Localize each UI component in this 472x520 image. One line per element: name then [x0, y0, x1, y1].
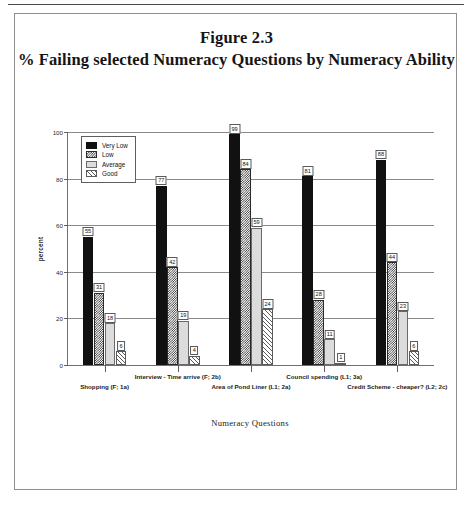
bar-very-low[interactable]: 77 — [156, 186, 167, 365]
legend-swatch-icon — [86, 142, 97, 149]
bar-value-label: 84 — [240, 159, 251, 168]
bar-value-label: 42 — [167, 257, 178, 266]
bar-good[interactable]: 1 — [335, 363, 346, 365]
legend-label: Low — [102, 151, 114, 158]
x-axis-tick — [178, 365, 179, 372]
x-axis-category-label: Shopping (F; 1a) — [80, 383, 129, 390]
bar-very-low[interactable]: 81 — [302, 176, 313, 365]
bar-value-label: 28 — [313, 290, 324, 299]
bar-average[interactable]: 19 — [178, 321, 189, 365]
bar-group: 7742194 — [156, 132, 200, 365]
y-axis-tick-label: 20 — [56, 315, 63, 322]
bar-value-label: 24 — [262, 299, 273, 308]
figure-border-box: Figure 2.3 % Failing selected Numeracy Q… — [14, 13, 457, 490]
bar-very-low[interactable]: 55 — [83, 237, 94, 365]
bar-value-label: 1 — [337, 353, 345, 362]
y-axis-tick-label: 100 — [53, 129, 63, 136]
y-axis-tick — [64, 225, 68, 226]
bar-value-label: 19 — [178, 311, 189, 320]
legend-label: Very Low — [102, 142, 128, 149]
bar-value-label: 81 — [302, 166, 313, 175]
bar-value-label: 4 — [190, 346, 198, 355]
bar-value-label: 55 — [83, 227, 94, 236]
y-axis-tick — [64, 365, 68, 366]
y-axis-tick — [64, 132, 68, 133]
bar-very-low[interactable]: 88 — [376, 160, 387, 365]
bar-average[interactable]: 23 — [398, 311, 409, 365]
y-axis-tick-label: 0 — [60, 362, 63, 369]
bar-average[interactable]: 18 — [105, 323, 116, 365]
bar-low[interactable]: 28 — [313, 300, 324, 365]
bar-group: 99845924 — [229, 132, 273, 365]
y-axis-tick — [64, 318, 68, 319]
legend-label: Good — [102, 170, 117, 177]
figure-page: Figure 2.3 % Failing selected Numeracy Q… — [0, 0, 472, 520]
x-axis-category-label: Interview - Time arrive (F; 2b) — [135, 373, 221, 380]
legend-label: Average — [102, 161, 125, 168]
bar-value-label: 77 — [156, 176, 167, 185]
bar-good[interactable]: 6 — [116, 351, 127, 365]
x-axis-category-label: Council spending (L1; 3a) — [286, 373, 362, 380]
legend-item-very-low[interactable]: Very Low — [86, 141, 128, 151]
bar-low[interactable]: 31 — [94, 293, 105, 365]
legend-swatch-icon — [86, 170, 97, 177]
bar-chart: percent 0204060801005531186Shopping (F; … — [15, 14, 458, 491]
bar-value-label: 99 — [229, 124, 240, 133]
y-axis-title: percent — [37, 236, 44, 261]
chart-legend: Very LowLowAverageGood — [81, 136, 136, 183]
bar-group: 8128111 — [302, 132, 346, 365]
bar-value-label: 11 — [324, 330, 335, 339]
legend-item-low[interactable]: Low — [86, 150, 128, 160]
legend-item-average[interactable]: Average — [86, 160, 128, 170]
y-axis-tick — [64, 179, 68, 180]
x-axis-category-label: Credit Scheme - cheaper? (L2; 2c) — [347, 383, 447, 390]
bar-very-low[interactable]: 99 — [229, 134, 240, 365]
bar-value-label: 6 — [117, 341, 125, 350]
bar-low[interactable]: 44 — [387, 262, 398, 365]
bar-average[interactable]: 59 — [251, 228, 262, 365]
bar-low[interactable]: 84 — [240, 169, 251, 365]
bar-group: 8844236 — [376, 132, 420, 365]
bar-value-label: 44 — [386, 253, 397, 262]
page-top-rule — [8, 4, 464, 5]
bar-value-label: 6 — [410, 341, 418, 350]
x-axis-tick — [251, 365, 252, 372]
y-axis-tick-label: 40 — [56, 268, 63, 275]
bar-good[interactable]: 4 — [189, 356, 200, 365]
bar-good[interactable]: 24 — [262, 309, 273, 365]
bar-value-label: 59 — [251, 218, 262, 227]
legend-swatch-icon — [86, 161, 97, 168]
x-axis-category-label: Area of Pond Liner (L1; 2a) — [211, 383, 290, 390]
y-axis-tick-label: 80 — [56, 175, 63, 182]
x-axis-tick — [397, 365, 398, 372]
y-axis-tick — [64, 272, 68, 273]
bar-value-label: 31 — [94, 283, 105, 292]
legend-swatch-icon — [86, 151, 97, 158]
legend-item-good[interactable]: Good — [86, 169, 128, 179]
y-axis-tick-label: 60 — [56, 222, 63, 229]
x-axis-title: Numeracy Questions — [67, 418, 433, 428]
bar-average[interactable]: 11 — [324, 339, 335, 365]
bar-value-label: 18 — [105, 313, 116, 322]
bar-low[interactable]: 42 — [167, 267, 178, 365]
x-axis-tick — [105, 365, 106, 372]
x-axis-tick — [324, 365, 325, 372]
bar-good[interactable]: 6 — [409, 351, 420, 365]
bar-value-label: 23 — [397, 302, 408, 311]
bar-value-label: 88 — [375, 150, 386, 159]
